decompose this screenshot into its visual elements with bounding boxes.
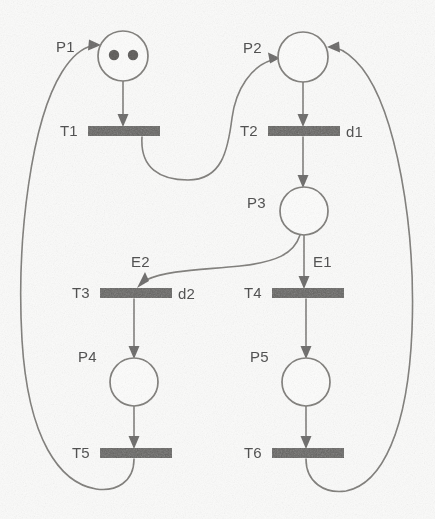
place-p4[interactable] bbox=[110, 358, 158, 406]
transition-t5[interactable] bbox=[100, 448, 172, 458]
petri-net-canvas: P1 P2 P3 P4 P5 T1 T2 T3 T4 T5 T6 d1 d2 E… bbox=[0, 0, 435, 519]
transition-annotation-d1: d1 bbox=[346, 123, 363, 140]
transition-label-t4: T4 bbox=[244, 284, 262, 301]
transition-label-t1: T1 bbox=[60, 122, 78, 139]
petri-net-diagram: P1 P2 P3 P4 P5 T1 T2 T3 T4 T5 T6 d1 d2 E… bbox=[0, 0, 435, 519]
place-label-p3: P3 bbox=[247, 194, 266, 211]
transition-t2[interactable] bbox=[268, 126, 340, 136]
token-dot bbox=[128, 50, 138, 60]
transition-t6[interactable] bbox=[272, 448, 344, 458]
transition-annotation-d2: d2 bbox=[178, 285, 195, 302]
place-p2[interactable] bbox=[278, 32, 328, 82]
place-label-p1: P1 bbox=[56, 38, 75, 55]
place-p3[interactable] bbox=[280, 187, 328, 235]
arc-label-e2: E2 bbox=[131, 253, 150, 270]
transition-t4[interactable] bbox=[272, 288, 344, 298]
transition-label-t2: T2 bbox=[240, 122, 258, 139]
transition-t3[interactable] bbox=[100, 288, 172, 298]
place-p5[interactable] bbox=[282, 358, 330, 406]
transition-label-t3: T3 bbox=[72, 284, 90, 301]
transition-label-t5: T5 bbox=[72, 444, 90, 461]
transition-t1[interactable] bbox=[88, 126, 160, 136]
transition-label-t6: T6 bbox=[244, 444, 262, 461]
place-p1[interactable] bbox=[98, 31, 148, 81]
place-label-p2: P2 bbox=[243, 39, 262, 56]
place-label-p5: P5 bbox=[250, 348, 269, 365]
paper-background bbox=[0, 0, 435, 519]
arc-label-e1: E1 bbox=[313, 253, 332, 270]
token-dot bbox=[109, 50, 119, 60]
place-label-p4: P4 bbox=[78, 348, 97, 365]
